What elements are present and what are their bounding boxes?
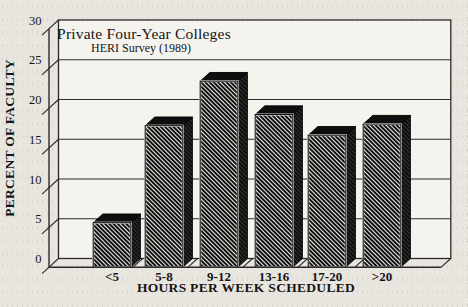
bar-front-face bbox=[363, 124, 401, 267]
y-tick-label: 10 bbox=[29, 173, 42, 187]
front-right-corner bbox=[441, 259, 451, 268]
bar-front-face bbox=[200, 81, 238, 267]
bar bbox=[93, 214, 140, 267]
y-tick-label: 0 bbox=[35, 252, 41, 266]
y-tick bbox=[42, 219, 59, 234]
scanned-page: <55-89-1213-1617-20>20 051015202530 Priv… bbox=[0, 0, 468, 307]
bar-front-face bbox=[145, 126, 183, 268]
bar bbox=[363, 115, 410, 267]
bar-front-face bbox=[308, 135, 346, 267]
bar-side-face bbox=[183, 117, 193, 267]
bar-front-face bbox=[255, 115, 293, 268]
bar bbox=[308, 127, 355, 268]
x-tick-label: <5 bbox=[105, 269, 119, 284]
chart-title: Private Four-Year Colleges bbox=[57, 25, 231, 42]
y-tick-label: 20 bbox=[29, 93, 42, 107]
bar bbox=[145, 117, 192, 267]
bar-side-face bbox=[238, 72, 248, 267]
bar-chart-figure: <55-89-1213-1617-20>20 051015202530 Priv… bbox=[0, 0, 468, 307]
y-tick bbox=[42, 60, 59, 75]
y-tick bbox=[42, 179, 59, 194]
bar-side-face bbox=[401, 115, 411, 267]
y-tick-label: 25 bbox=[29, 53, 42, 67]
bar bbox=[200, 72, 247, 267]
y-axis-title: PERCENT OF FACULTY bbox=[2, 59, 17, 217]
y-tick bbox=[42, 259, 59, 274]
y-tick bbox=[42, 139, 59, 154]
y-tick-labels: 051015202530 bbox=[29, 14, 42, 267]
bar-front-face bbox=[93, 223, 131, 268]
x-axis-title: HOURS PER WEEK SCHEDULED bbox=[137, 280, 355, 295]
bar-side-face bbox=[346, 127, 356, 268]
y-tick-label: 15 bbox=[29, 133, 42, 147]
bar bbox=[255, 106, 302, 267]
y-tick-label: 5 bbox=[35, 212, 41, 226]
chart-subtitle: HERI Survey (1989) bbox=[91, 41, 191, 55]
y-tick-label: 30 bbox=[29, 14, 42, 28]
x-tick-label: >20 bbox=[372, 269, 392, 284]
y-axis-ticks bbox=[42, 20, 59, 274]
y-tick bbox=[42, 20, 59, 35]
bar-side-face bbox=[293, 106, 303, 267]
y-tick bbox=[42, 100, 59, 115]
